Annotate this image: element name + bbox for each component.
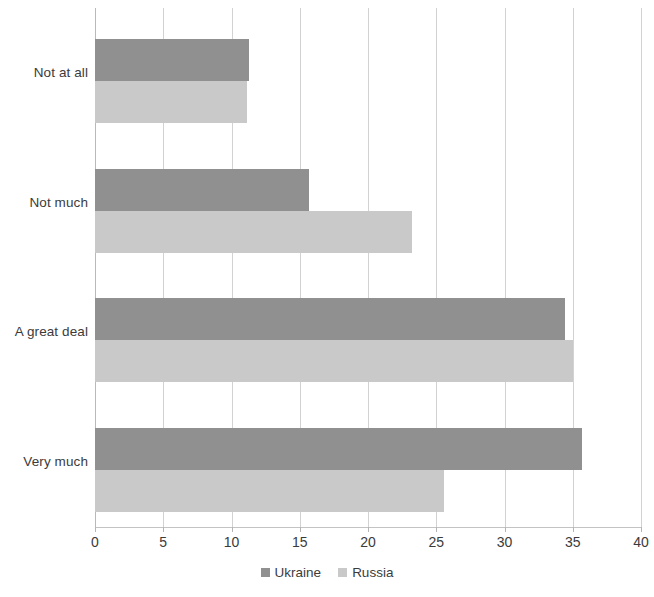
bar-ukraine-a-great-deal: [95, 298, 565, 340]
x-axis-tick-label-35: 35: [553, 535, 593, 549]
legend-swatch-russia-icon: [338, 568, 347, 577]
legend-swatch-ukraine-icon: [261, 568, 270, 577]
bar-chart: Not at allNot muchA great dealVery much …: [0, 0, 654, 597]
bar-ukraine-not-at-all: [95, 39, 249, 81]
y-axis-label-a-great-deal: A great deal: [4, 325, 88, 339]
gridline-40: [641, 8, 642, 527]
plot-area: [95, 8, 641, 527]
legend-item-ukraine[interactable]: Ukraine: [261, 566, 322, 580]
x-tick-mark-25: [436, 527, 437, 532]
x-axis-tick-label-25: 25: [416, 535, 456, 549]
x-axis-tick-label-20: 20: [348, 535, 388, 549]
bar-russia-not-much: [95, 211, 412, 253]
x-axis-tick-label-30: 30: [485, 535, 525, 549]
x-tick-mark-5: [163, 527, 164, 532]
legend-item-russia[interactable]: Russia: [338, 566, 393, 580]
x-axis-tick-label-5: 5: [143, 535, 183, 549]
chart-legend: UkraineRussia: [0, 566, 654, 580]
x-axis-tick-label-40: 40: [621, 535, 654, 549]
bar-russia-not-at-all: [95, 81, 247, 123]
y-axis-category-labels: Not at allNot muchA great dealVery much: [0, 0, 88, 527]
x-tick-mark-15: [300, 527, 301, 532]
x-axis-tick-label-15: 15: [280, 535, 320, 549]
x-tick-mark-35: [573, 527, 574, 532]
legend-label-ukraine: Ukraine: [275, 566, 322, 580]
legend-label-russia: Russia: [352, 566, 393, 580]
y-axis-label-not-much: Not much: [4, 196, 88, 210]
bar-ukraine-very-much: [95, 428, 582, 470]
bar-russia-a-great-deal: [95, 340, 573, 382]
x-axis-tick-label-10: 10: [212, 535, 252, 549]
x-tick-mark-0: [95, 527, 96, 532]
x-tick-mark-30: [505, 527, 506, 532]
x-tick-mark-10: [232, 527, 233, 532]
bar-russia-very-much: [95, 470, 444, 512]
x-tick-mark-40: [641, 527, 642, 532]
x-tick-mark-20: [368, 527, 369, 532]
x-axis-tick-label-0: 0: [75, 535, 115, 549]
y-axis-label-not-at-all: Not at all: [4, 66, 88, 80]
bar-ukraine-not-much: [95, 169, 309, 211]
y-axis-label-very-much: Very much: [4, 455, 88, 469]
